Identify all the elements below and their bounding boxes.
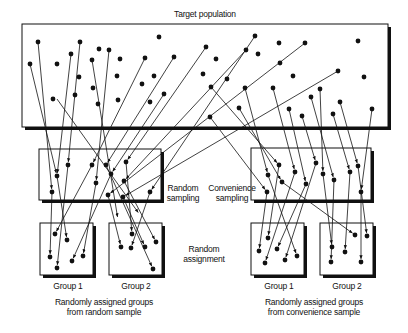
population-dot [237, 106, 242, 111]
convenience-sample-dot [280, 180, 285, 185]
population-dot [107, 48, 112, 53]
population-dot [370, 107, 375, 112]
population-dot [28, 62, 33, 67]
label-random-assignment: Random assignment [177, 244, 231, 264]
population-dot [244, 48, 249, 53]
population-dot [362, 75, 367, 80]
random-group1-dot [65, 238, 70, 243]
convenience-group2-dot [353, 233, 358, 238]
convenience-group2-dot [329, 260, 334, 265]
random-sample-dot [55, 174, 60, 179]
random-sample-dot [94, 181, 99, 186]
population-dot [77, 75, 82, 80]
convenience-group1-dot [295, 254, 300, 259]
random-group2-dot [119, 245, 124, 250]
label-random-sampling: Random sampling [160, 183, 206, 203]
population-dot [201, 72, 206, 77]
random-group2-dot [151, 267, 156, 272]
caption-random-sample: Randomly assigned groups from random sam… [52, 297, 156, 317]
random-sample-dot [104, 163, 109, 168]
convenience-sample-dot [359, 190, 364, 195]
diagram-title: Target population [150, 9, 260, 19]
population-dot [162, 92, 167, 97]
population-dot [73, 93, 78, 98]
random-group2-dot [130, 232, 135, 237]
random-group1-dot [55, 266, 60, 271]
convenience-sample-dot [356, 164, 361, 169]
population-dot [152, 74, 157, 79]
random-group1-dot [48, 255, 53, 260]
population-dot [36, 40, 41, 45]
label-convenience-group2: Group 2 [323, 281, 371, 291]
random-sample-dot [90, 163, 95, 168]
convenience-group2-dot [343, 250, 348, 255]
label-random-group1: Group 1 [44, 281, 92, 291]
population-dot [157, 35, 162, 40]
population-dot [115, 74, 120, 79]
convenience-group1-dot [263, 261, 268, 266]
convenience-sample-dot [277, 163, 282, 168]
random-sample-dot [148, 190, 153, 195]
population-dot [97, 47, 102, 52]
population-dot [278, 61, 283, 66]
random-group2-dot [154, 240, 159, 245]
population-dot [356, 39, 361, 44]
convenience-group2-dot [359, 260, 364, 265]
population-dot [271, 86, 276, 91]
population-dot [90, 58, 95, 63]
convenience-group1-dot [257, 249, 262, 254]
population-dot [209, 85, 214, 90]
population-dot [69, 52, 74, 57]
population-dot [116, 98, 121, 103]
random-sample-dot [109, 172, 114, 177]
convenience-sample-dot [266, 173, 271, 178]
population-dot [256, 52, 261, 57]
population-dot [300, 114, 305, 119]
population-dot [204, 45, 209, 50]
population-dot [51, 97, 56, 102]
population-dot [309, 95, 314, 100]
population-dot [143, 56, 148, 61]
label-convenience-group1: Group 1 [255, 281, 303, 291]
convenience-group2-dot [365, 234, 370, 239]
boxes-layer [22, 24, 391, 278]
convenience-sample-dot [265, 190, 270, 195]
label-random-group2: Group 2 [112, 281, 160, 291]
convenience-group1-dot [283, 258, 288, 263]
population-dot [214, 57, 219, 62]
convenience-group1-dot [266, 236, 271, 241]
convenience-sample-dot [293, 170, 298, 175]
population-dot [96, 102, 101, 107]
caption-convenience-sample: Randomly assigned groups from convenienc… [258, 297, 370, 317]
population-dot [331, 112, 336, 117]
population-dot [91, 86, 96, 91]
convenience-sample-dot [314, 161, 319, 166]
random-sample-dot [106, 193, 111, 198]
random-sample-dot [121, 195, 126, 200]
random-sample-dot [124, 160, 129, 165]
convenience-sample-dot [304, 182, 309, 187]
population-dot [318, 87, 323, 92]
population-dot [303, 41, 308, 46]
convenience-sample-dot [348, 170, 353, 175]
population-dot [277, 41, 282, 46]
population-dot [243, 86, 248, 91]
population-dot [253, 34, 258, 39]
population-dot [225, 77, 230, 82]
population-dot [338, 100, 343, 105]
population-dot [118, 57, 123, 62]
convenience-group1-dot [275, 247, 280, 252]
population-dot [55, 62, 60, 67]
random-group2-dot [129, 246, 134, 251]
convenience-sample-dot [321, 172, 326, 177]
population-dot [291, 74, 296, 79]
population-dot [140, 82, 145, 87]
random-sample-dot [66, 163, 71, 168]
random-sample-dot [50, 190, 55, 195]
label-convenience-sampling: Convenience sampling [207, 183, 257, 203]
population-dot [287, 107, 292, 112]
population-dot [172, 55, 177, 60]
random-sample-dot [122, 179, 127, 184]
population-dot [336, 69, 341, 74]
random-group1-dot [70, 259, 75, 264]
